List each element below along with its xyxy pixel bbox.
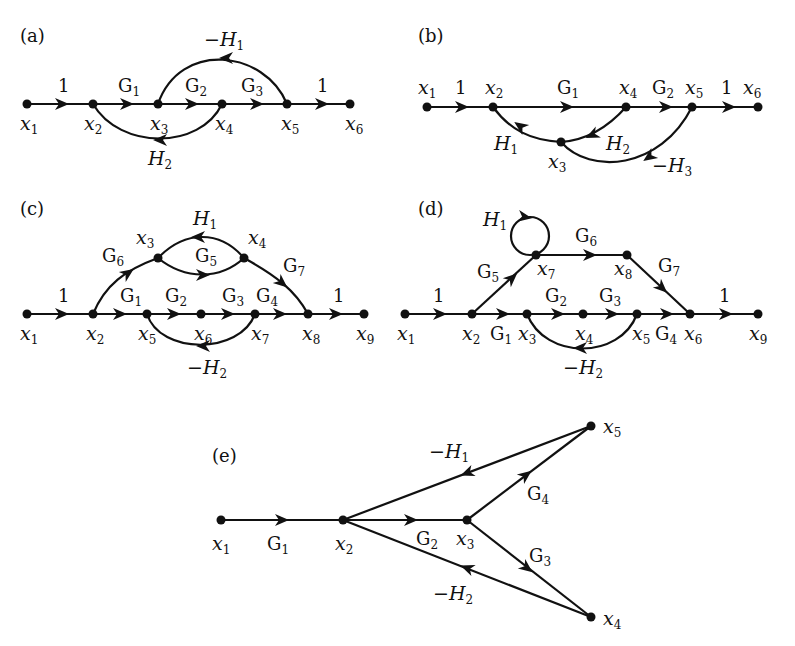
node-x9 [754,310,763,319]
gain-label: 1 [58,75,69,96]
gain-label: −H2 [187,356,227,381]
gain-label: G2 [545,285,567,309]
node-x2 [468,310,477,319]
node-label: x1 [212,532,230,557]
gain-label: G4 [256,285,278,309]
gain-label: G3 [222,285,244,309]
gain-label: H2 [605,132,630,157]
node-x3 [154,100,163,109]
gain-label: 1 [455,77,466,98]
panel-b-label: (b) [418,25,444,46]
node-label: x5 [603,415,621,440]
panel-d: (d) 1 G2 G3 1 G5 G6 [397,198,767,381]
gain-label: H2 [147,147,172,172]
node-label: x3 [150,112,168,137]
arrow-icon [458,560,475,576]
arrow-icon [219,52,233,64]
node-label: x3 [456,527,474,552]
node-x2 [489,103,498,112]
panel-c: (c) 1 G1 G2 G3 G4 1 [20,198,374,381]
panel-b: (b) x1 1 x2 G1 x4 G2 x5 1 x6 H1 H2 x3 −H… [418,25,763,179]
node-label: x1 [20,112,38,137]
gain-label: G1 [120,285,142,309]
gain-label: 1 [317,75,328,96]
gain-label: G3 [241,75,263,99]
node-x9 [360,310,369,319]
node-label: x5 [281,112,299,137]
node-label: x9 [356,322,374,347]
gain-label: 1 [719,285,730,306]
node-label: x4 [603,607,622,632]
gain-label: G7 [283,255,305,279]
gain-label: G4 [527,483,549,507]
node-label: x2 [84,112,102,137]
gain-label: G1 [267,533,289,557]
gain-label: 1 [58,285,69,306]
panel-e-label: (e) [212,445,237,466]
node-x4 [218,100,227,109]
gain-label: 1 [433,285,444,306]
gain-label: H1 [482,208,507,233]
node-label: x8 [614,257,632,282]
node-label: x6 [194,322,212,347]
node-label: x4 [215,112,234,137]
node-label: x6 [743,76,761,101]
node-label: x7 [537,257,555,282]
gain-label: −H2 [563,356,603,381]
node-x4 [240,254,249,263]
gain-label: G2 [165,285,187,309]
node-x5 [587,422,596,431]
node-x4 [579,310,588,319]
node-x2 [89,310,98,319]
feedback-edge-neg-h1 [158,60,287,104]
node-x6 [346,100,355,109]
node-label: x5 [685,76,703,101]
node-label: x5 [632,322,650,347]
node-x8 [304,310,313,319]
gain-label: G2 [416,528,438,552]
panel-a: (a) 1 G1 G2 G3 1 −H1 H2 x1 x2 x3 x4 x5 [20,25,363,172]
node-label: x1 [418,76,436,101]
node-label: x2 [462,322,480,347]
node-label: x7 [251,322,269,347]
gain-label: G1 [118,75,140,99]
node-x7 [251,310,260,319]
node-x5 [143,310,152,319]
node-x4 [587,613,596,622]
gain-label: G2 [185,75,207,99]
node-x5 [283,100,292,109]
node-x6 [754,103,763,112]
node-label: x2 [485,76,503,101]
panel-e: (e) x1 G1 x2 G2 x3 G3 G4 −H1 −H2 x5 x4 [212,415,622,632]
panel-a-label: (a) [20,25,45,46]
node-x1 [23,310,32,319]
node-label: x3 [136,226,154,251]
gain-label: −H2 [433,582,473,607]
gain-label: G6 [102,245,124,269]
signal-flow-graph-figure: (a) 1 G1 G2 G3 1 −H1 H2 x1 x2 x3 x4 x5 [0,0,795,646]
gain-label: 1 [721,77,732,98]
node-label: x4 [619,76,638,101]
node-x5 [688,103,697,112]
node-x6 [197,310,206,319]
gain-label: −H1 [429,440,469,465]
node-x3 [154,254,163,263]
gain-label: G2 [652,77,674,101]
node-label: x9 [749,322,767,347]
gain-label: G1 [490,323,512,347]
panel-d-label: (d) [418,198,444,219]
node-x1 [23,100,32,109]
node-label: x4 [575,322,594,347]
node-label: x1 [20,322,38,347]
node-x2 [89,100,98,109]
node-label: x6 [345,112,363,137]
node-label: x2 [86,322,104,347]
gain-label: G5 [477,261,499,285]
gain-label: H1 [192,207,217,232]
node-x2 [339,516,348,525]
node-x1 [401,310,410,319]
node-x5 [633,310,642,319]
node-label: x8 [302,322,320,347]
panel-c-label: (c) [20,198,44,219]
node-x3 [523,310,532,319]
